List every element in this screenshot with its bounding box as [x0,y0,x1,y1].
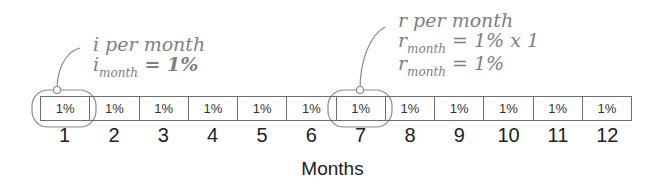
callout-equation: imonth = 1% [93,54,205,77]
callout-equation-1: rmonth = 1% x 1 [398,30,539,53]
connector-curve-1 [57,48,80,90]
rate-cell: 1% [583,97,631,120]
callout-title: r per month [398,10,539,30]
month-label: 12 [583,124,632,147]
month-label: 8 [385,124,434,147]
callout-i-per-month: i per month imonth = 1% [93,34,205,77]
rate-cell: 1% [238,97,287,120]
rate-cell: 1% [140,97,189,120]
rate-cell: 1% [435,97,484,120]
rate-cell: 1% [287,97,336,120]
connector-curve-7 [360,27,385,90]
rate-cell: 1% [534,97,583,120]
axis-label: Months [0,158,665,180]
rate-cell: 1% [90,97,139,120]
month-label: 4 [188,124,237,147]
callout-r-per-month: r per month rmonth = 1% x 1 rmonth = 1% [398,10,539,76]
connector-dot-1 [54,87,61,94]
month-label: 2 [89,124,138,147]
month-label: 10 [484,124,533,147]
rate-cell: 1% [337,97,386,120]
rate-cell: 1% [386,97,435,120]
month-label: 9 [435,124,484,147]
month-label: 7 [336,124,385,147]
rate-cell: 1% [189,97,238,120]
callout-equation-2: rmonth = 1% [398,53,539,76]
connector-dot-7 [357,87,364,94]
month-label: 5 [237,124,286,147]
month-label: 11 [533,124,582,147]
callout-title: i per month [93,34,205,54]
month-labels: 1 2 3 4 5 6 7 8 9 10 11 12 [40,124,632,147]
monthly-rate-row: 1% 1% 1% 1% 1% 1% 1% 1% 1% 1% 1% 1% [40,96,632,121]
month-label: 6 [287,124,336,147]
rate-cell: 1% [484,97,533,120]
month-label: 1 [40,124,89,147]
rate-cell: 1% [41,97,90,120]
month-label: 3 [139,124,188,147]
